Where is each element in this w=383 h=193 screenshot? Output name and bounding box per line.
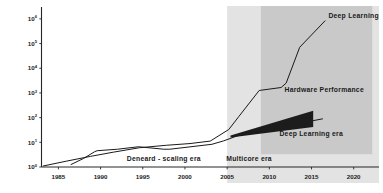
y-tick-label: 104 [28, 64, 38, 72]
annotation-hardware-performance: Hardware Performance [285, 86, 364, 93]
era-label-dennard-scaling: Deneard - scaling era [127, 155, 201, 163]
x-tick-label: 1985 [51, 173, 65, 180]
x-tick-label: 2000 [178, 173, 192, 180]
y-tick-label: 103 [28, 89, 38, 97]
x-tick-label: 2020 [347, 173, 361, 180]
x-tick-label: 2015 [305, 173, 319, 180]
x-tick-label: 2010 [262, 173, 276, 180]
x-tick-label: 1990 [94, 173, 108, 180]
y-tick-label: 105 [28, 39, 38, 47]
annotation-deep-learning-era: Deep Learning era [279, 130, 343, 138]
y-tick-label: 106 [28, 14, 38, 22]
era-labels-group: Deneard - scaling era Multicore era [127, 155, 272, 163]
era-label-multicore: Multicore era [226, 155, 272, 162]
chart-figure: 100101102103104105106 198519901995200020… [0, 0, 383, 193]
x-tick-labels: 19851990199520002005201020152020 [51, 173, 361, 180]
x-tick-label: 2005 [220, 173, 234, 180]
y-tick-label: 101 [28, 138, 38, 146]
x-tick-label: 1995 [136, 173, 150, 180]
y-tick-label: 102 [28, 113, 38, 121]
chart-canvas: 100101102103104105106 198519901995200020… [0, 0, 383, 193]
annotation-deep-learning: Deep Learning [328, 12, 378, 20]
y-tick-labels: 100101102103104105106 [28, 14, 38, 170]
y-tick-label: 100 [28, 163, 38, 171]
